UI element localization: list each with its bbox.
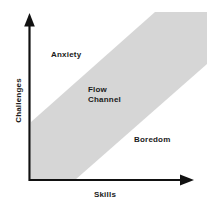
diagram-canvas [0, 0, 207, 212]
x-axis-label: Skills [80, 190, 130, 199]
y-axis-arrow-icon [24, 13, 35, 27]
zone-label-flow-channel: Flow Channel [88, 85, 121, 105]
zone-label-boredom: Boredom [134, 135, 171, 145]
x-axis-arrow-icon [180, 175, 194, 186]
flow-channel-diagram: Anxiety Flow Channel Boredom Challenges … [0, 0, 207, 212]
zone-label-anxiety: Anxiety [51, 50, 81, 60]
y-axis-label: Challenges [14, 71, 23, 131]
